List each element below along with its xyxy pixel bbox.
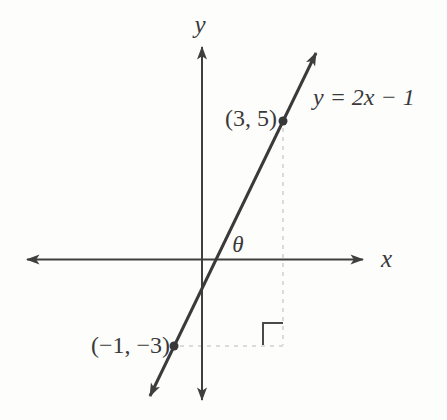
lower-point-label: (−1, −3) [91, 332, 170, 358]
point-dot-upper [279, 117, 288, 126]
x-axis-label: x [380, 245, 392, 272]
equation-label: y = 2x − 1 [311, 84, 415, 110]
upper-point-label: (3, 5) [225, 105, 277, 131]
y-axis-label: y [191, 11, 206, 38]
figure-canvas: y x y = 2x − 1 (3, 5) (−1, −3) θ [0, 0, 447, 420]
point-dot-lower [170, 342, 179, 351]
coordinate-plane-figure: y x y = 2x − 1 (3, 5) (−1, −3) θ [0, 0, 447, 420]
angle-theta-label: θ [232, 232, 243, 257]
right-angle-icon [263, 323, 283, 345]
